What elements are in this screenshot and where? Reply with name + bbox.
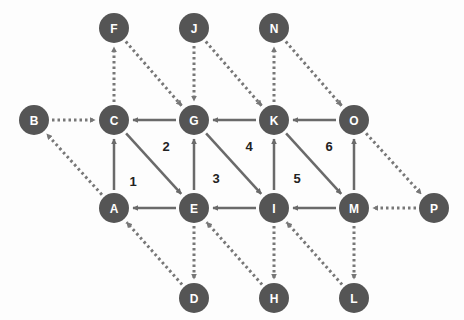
region-label-1: 1 <box>129 174 136 189</box>
edge-l-to-i <box>287 222 342 284</box>
region-label-3: 3 <box>212 171 219 186</box>
edge-o-to-p <box>366 133 421 194</box>
graph-svg: 123456 FJNBCGKOAEIMPDHL <box>0 0 464 320</box>
edge-j-to-k <box>206 42 262 106</box>
region-label-5: 5 <box>293 171 300 186</box>
edge-n-to-o <box>286 42 342 106</box>
node-d: D <box>179 283 209 313</box>
regions-layer: 123456 <box>129 139 332 189</box>
node-label: I <box>272 202 275 216</box>
node-a: A <box>99 193 129 223</box>
node-g: G <box>179 105 209 135</box>
edge-h-to-e <box>207 222 262 284</box>
node-label: P <box>430 202 438 216</box>
edge-f-to-g <box>126 42 182 106</box>
node-k: K <box>259 105 289 135</box>
node-l: L <box>339 283 369 313</box>
node-label: H <box>270 292 279 306</box>
node-label: J <box>191 22 198 36</box>
node-m: M <box>339 193 369 223</box>
node-label: A <box>110 202 119 216</box>
node-label: O <box>349 114 358 128</box>
edges-layer <box>47 42 421 285</box>
node-label: B <box>30 114 39 128</box>
node-label: C <box>110 114 119 128</box>
node-p: P <box>419 193 449 223</box>
node-label: G <box>189 114 198 128</box>
edge-a-to-b <box>47 134 102 195</box>
graph-diagram: 123456 FJNBCGKOAEIMPDHL <box>0 0 464 320</box>
node-b: B <box>19 105 49 135</box>
node-label: K <box>270 114 279 128</box>
node-n: N <box>259 13 289 43</box>
node-label: F <box>110 22 117 36</box>
node-label: D <box>190 292 199 306</box>
node-c: C <box>99 105 129 135</box>
edge-d-to-a <box>127 222 182 284</box>
node-i: I <box>259 193 289 223</box>
node-label: M <box>349 202 359 216</box>
node-label: N <box>270 22 279 36</box>
node-o: O <box>339 105 369 135</box>
region-label-4: 4 <box>245 139 253 154</box>
node-label: L <box>350 292 357 306</box>
region-label-2: 2 <box>162 139 169 154</box>
region-label-6: 6 <box>325 139 332 154</box>
node-label: E <box>190 202 198 216</box>
node-h: H <box>259 283 289 313</box>
node-f: F <box>99 13 129 43</box>
node-e: E <box>179 193 209 223</box>
node-j: J <box>179 13 209 43</box>
